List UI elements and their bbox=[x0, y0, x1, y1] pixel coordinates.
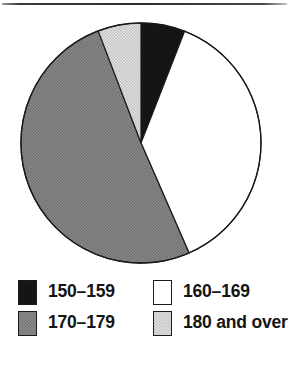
legend-item-180-and-over: 180 and over bbox=[153, 309, 288, 337]
pie-slices-group bbox=[21, 23, 261, 263]
legend-label-170-179: 170–179 bbox=[48, 314, 115, 332]
pie-chart-plot-area bbox=[0, 0, 290, 275]
legend-swatch-medium-gray-icon bbox=[18, 311, 37, 336]
legend-swatch-light-gray-icon bbox=[153, 311, 172, 336]
legend-label-160-169: 160–169 bbox=[183, 283, 250, 301]
chart-legend: 150–159 160–169 170–179 180 and over bbox=[0, 276, 290, 356]
legend-row: 150–159 160–169 bbox=[0, 278, 290, 308]
pie-chart-svg bbox=[0, 0, 290, 275]
legend-row: 170–179 180 and over bbox=[0, 309, 290, 339]
pie-chart-figure: 150–159 160–169 170–179 180 and over bbox=[0, 0, 290, 365]
legend-item-170-179: 170–179 bbox=[18, 309, 115, 337]
legend-label-150-159: 150–159 bbox=[48, 283, 115, 301]
legend-swatch-white-icon bbox=[153, 280, 172, 305]
legend-swatch-black-icon bbox=[18, 280, 37, 305]
legend-item-160-169: 160–169 bbox=[153, 278, 250, 306]
legend-item-150-159: 150–159 bbox=[18, 278, 115, 306]
legend-label-180-and-over: 180 and over bbox=[183, 314, 288, 332]
